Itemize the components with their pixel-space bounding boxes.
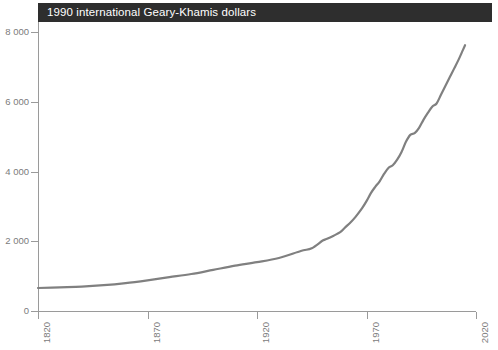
y-axis-tick-label: 2 000 [0,236,29,246]
y-axis-tick [31,102,38,103]
x-axis-tick [476,312,477,319]
plot-area [38,22,476,311]
y-axis-tick-label: 6 000 [0,97,29,107]
y-axis-tick [31,311,38,312]
x-axis-tick-label: 2020 [480,322,490,343]
x-axis-tick [367,312,368,319]
x-axis-tick [38,312,39,319]
y-axis-tick-label: 0 [0,306,29,316]
chart-container: 1990 international Geary-Khamis dollars … [0,0,498,350]
y-axis-tick-label: 8 000 [0,27,29,37]
x-axis-tick [148,312,149,319]
x-axis-tick-label: 1870 [152,322,162,343]
x-axis-tick-label: 1970 [371,322,381,343]
x-axis-tick [257,312,258,319]
y-axis-tick [31,32,38,33]
y-axis-tick [31,241,38,242]
x-axis-tick-label: 1820 [42,322,52,343]
x-axis-tick-label: 1920 [261,322,271,343]
y-axis-tick-label: 4 000 [0,167,29,177]
chart-title: 1990 international Geary-Khamis dollars [47,6,256,19]
y-axis-line [38,22,39,312]
chart-title-banner: 1990 international Geary-Khamis dollars [38,3,492,22]
y-axis-tick [31,172,38,173]
